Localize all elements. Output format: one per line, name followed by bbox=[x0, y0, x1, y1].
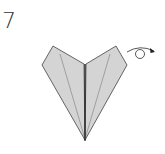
right-wing bbox=[85, 46, 127, 140]
folded-paper-shape bbox=[42, 46, 127, 141]
origami-diagram bbox=[0, 0, 165, 154]
turn-over-arrow-icon bbox=[127, 48, 155, 59]
left-wing bbox=[42, 46, 85, 140]
